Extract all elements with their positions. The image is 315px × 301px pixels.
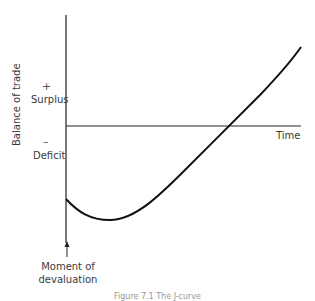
deficit-label: Deficit: [33, 150, 65, 161]
annotation-line2: devaluation: [38, 274, 98, 285]
arrow-up-icon: [65, 241, 70, 257]
figure-caption: Figure 7.1 The J-curve: [0, 292, 315, 301]
surplus-label: Surplus: [31, 94, 68, 105]
plus-sign: +: [42, 80, 51, 93]
annotation-line1: Moment of: [38, 261, 98, 272]
j-curve-line: [66, 47, 301, 220]
y-axis-label: Balance of trade: [11, 63, 22, 146]
minus-sign: –: [43, 135, 49, 148]
time-label: Time: [276, 130, 300, 141]
